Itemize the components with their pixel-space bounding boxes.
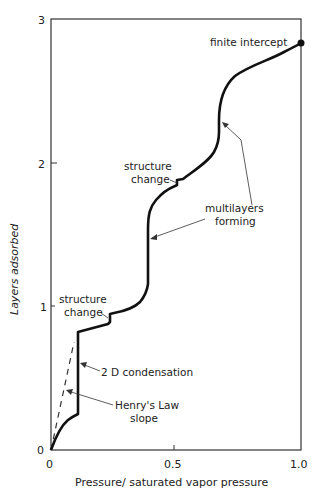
x-axis-title: Pressure/ saturated vapor pressure (75, 476, 268, 489)
x-tick-label-0.5: 0.5 (164, 458, 182, 471)
y-tick-label-0: 0 (37, 444, 44, 457)
henrys-law-line (51, 342, 74, 450)
arrowhead-icon (80, 362, 87, 368)
condensation-label: 2 D condensation (101, 366, 193, 378)
structure-change-upper-label-1: structure (124, 160, 172, 172)
structure-change-upper-label-2: change (131, 173, 170, 185)
x-tick-label-1.0: 1.0 (290, 458, 308, 471)
multilayers-arrow-line (241, 140, 252, 205)
y-tick-label-3: 3 (38, 14, 45, 27)
arrowhead-icon (66, 389, 73, 395)
y-tick-label-2: 2 (38, 158, 45, 171)
structure-change-lower-label-1: structure (59, 293, 107, 305)
multilayers-arrow-left (152, 219, 205, 238)
x-tick-label-0: 0 (46, 458, 53, 471)
arrowhead-icon (150, 234, 157, 240)
isotherm-curve (51, 43, 301, 450)
multilayers-label-1: multilayers (205, 202, 264, 214)
henrys-law-label-1: Henry's Law (115, 399, 180, 411)
finite-intercept-label: finite intercept (210, 36, 287, 48)
y-axis-title: Layers adsorbed (8, 223, 21, 315)
y-tick-label-1: 1 (40, 301, 47, 314)
henrys-law-label-2: slope (130, 412, 158, 424)
arrowhead-icon (222, 122, 229, 128)
henrys-law-arrow (68, 391, 113, 405)
finite-intercept-dot (298, 40, 305, 47)
structure-change-lower-label-2: change (64, 306, 103, 318)
plot-frame (51, 19, 301, 450)
multilayers-label-2: forming (215, 215, 256, 227)
adsorption-isotherm-chart: 3 2 1 0 0 0.5 1.0 Pressure/ saturated va… (0, 0, 319, 496)
